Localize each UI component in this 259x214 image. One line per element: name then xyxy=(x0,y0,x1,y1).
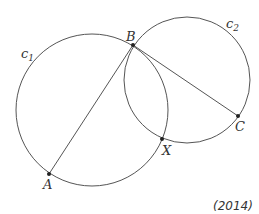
label-c: C xyxy=(235,119,245,134)
label-c1: c1 xyxy=(21,46,34,63)
circle-c2 xyxy=(124,17,250,143)
label-a: A xyxy=(42,177,52,192)
segment-ab xyxy=(49,45,133,174)
label-x: X xyxy=(161,143,172,158)
geometry-diagram: c1 c2 B C X A (2014) xyxy=(0,0,259,214)
diagram-svg: c1 c2 B C X A (2014) xyxy=(0,0,259,214)
point-c xyxy=(236,114,240,118)
label-b: B xyxy=(125,29,136,44)
caption-year: (2014) xyxy=(213,199,253,213)
label-c2: c2 xyxy=(226,16,239,33)
point-a xyxy=(47,172,51,176)
segment-bc xyxy=(133,45,238,116)
circle-c1 xyxy=(16,34,168,186)
point-x xyxy=(160,137,164,141)
